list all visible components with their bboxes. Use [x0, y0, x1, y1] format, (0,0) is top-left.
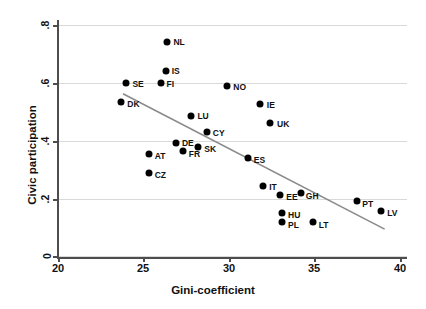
data-point-label-cy: CY — [213, 128, 225, 138]
data-point-gh — [297, 190, 304, 197]
plot-area: .8 .6 .4 .2 0 20 25 30 35 40 Civic parti… — [0, 0, 426, 309]
data-point-de — [172, 140, 179, 147]
data-point-ie — [256, 100, 263, 107]
data-point-label-es: ES — [254, 155, 265, 165]
data-point-is — [162, 68, 169, 75]
data-point-label-gh: GH — [306, 191, 319, 201]
data-point-label-no: NO — [233, 82, 246, 92]
data-point-label-ie: IE — [267, 100, 275, 110]
data-point-label-sk: SK — [204, 144, 216, 154]
data-point-es — [244, 155, 251, 162]
data-point-it — [260, 183, 267, 190]
data-point-label-ee: EE — [286, 192, 297, 202]
data-point-cy — [203, 129, 210, 136]
data-point-label-fi: FI — [167, 79, 175, 89]
data-point-dk — [118, 99, 125, 106]
data-point-label-de: DE — [182, 138, 194, 148]
data-point-label-fr: FR — [189, 149, 200, 159]
data-point-pl — [279, 218, 286, 225]
data-point-pt — [354, 198, 361, 205]
data-point-label-lv: LV — [387, 208, 397, 218]
data-point-lv — [378, 208, 385, 215]
data-point-label-at: AT — [155, 151, 166, 161]
data-point-fi — [157, 79, 164, 86]
data-point-label-nl: NL — [173, 37, 184, 47]
data-point-label-uk: UK — [277, 119, 289, 129]
data-point-at — [145, 151, 152, 158]
data-point-label-lu: LU — [197, 111, 208, 121]
data-point-label-pl: PL — [288, 220, 299, 230]
data-point-no — [224, 82, 231, 89]
data-point-label-it: IT — [269, 182, 277, 192]
data-point-fr — [179, 148, 186, 155]
data-point-se — [123, 79, 130, 86]
data-point-label-pt: PT — [362, 199, 373, 209]
data-point-label-is: IS — [172, 66, 180, 76]
data-point-hu — [279, 210, 286, 217]
scatter-chart: .8 .6 .4 .2 0 20 25 30 35 40 Civic parti… — [0, 0, 426, 309]
fit-line — [0, 0, 426, 309]
data-point-ee — [277, 192, 284, 199]
data-point-lt — [309, 218, 316, 225]
data-point-cz — [145, 170, 152, 177]
data-point-nl — [164, 39, 171, 46]
data-point-label-se: SE — [132, 79, 143, 89]
data-point-label-cz: CZ — [155, 170, 166, 180]
data-point-uk — [267, 119, 274, 126]
data-point-label-dk: DK — [127, 99, 139, 109]
data-point-lu — [188, 112, 195, 119]
data-point-label-lt: LT — [319, 220, 329, 230]
data-point-label-hu: HU — [288, 210, 300, 220]
